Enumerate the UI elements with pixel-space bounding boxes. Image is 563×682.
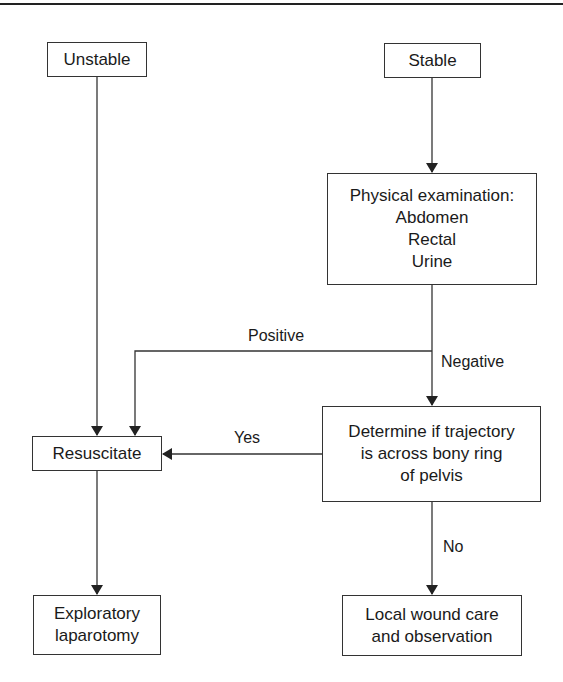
node-local-wound-care: Local wound care and observation (342, 595, 522, 656)
node-resuscitate-text: Resuscitate (53, 443, 142, 465)
node-determine-line-2: is across bony ring (361, 443, 503, 465)
node-physical-examination: Physical examination: Abdomen Rectal Uri… (327, 173, 537, 285)
node-stable-text: Stable (408, 50, 456, 72)
node-exploratory-laparotomy: Exploratory laparotomy (33, 595, 161, 655)
node-local-wound-line-2: and observation (372, 626, 493, 648)
edge-label-negative: Negative (441, 353, 504, 371)
node-physical-exam-line-2: Abdomen (396, 207, 469, 229)
node-resuscitate: Resuscitate (32, 436, 162, 471)
node-physical-exam-line-4: Urine (412, 251, 453, 273)
edge-label-no: No (443, 538, 463, 556)
node-unstable: Unstable (47, 42, 147, 77)
edge-label-yes: Yes (234, 429, 260, 447)
node-physical-exam-line-3: Rectal (408, 229, 456, 251)
node-exploratory-line-1: Exploratory (54, 603, 140, 625)
node-local-wound-line-1: Local wound care (365, 604, 498, 626)
node-physical-exam-line-1: Physical examination: (350, 185, 514, 207)
node-unstable-text: Unstable (63, 49, 130, 71)
node-stable: Stable (384, 43, 481, 78)
node-exploratory-line-2: laparotomy (55, 625, 139, 647)
node-determine-line-3: of pelvis (400, 465, 462, 487)
node-determine-line-1: Determine if trajectory (348, 421, 514, 443)
edge-label-positive: Positive (248, 327, 304, 345)
node-determine-trajectory: Determine if trajectory is across bony r… (322, 406, 541, 502)
